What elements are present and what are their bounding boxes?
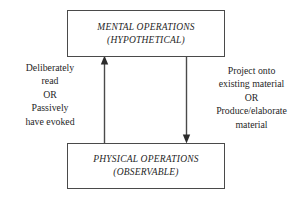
node-physical-operations-title: PHYSICAL OPERATIONS	[93, 153, 198, 166]
edge-label-upward-line-4: Passively	[0, 101, 100, 114]
edge-label-upward-line-5: have evoked	[0, 115, 100, 128]
edge-label-upward: Deliberately read OR Passively have evok…	[0, 61, 100, 128]
node-physical-operations-subtitle: (OBSERVABLE)	[113, 166, 178, 179]
edge-label-downward-line-5: material	[199, 118, 304, 131]
edge-label-upward-line-2: read	[0, 74, 100, 87]
upward-arrow	[101, 56, 108, 144]
edge-label-upward-line-1: Deliberately	[0, 61, 100, 74]
node-physical-operations: PHYSICAL OPERATIONS (OBSERVABLE)	[67, 143, 225, 189]
edge-label-upward-line-3: OR	[0, 88, 100, 101]
diagram-canvas: MENTAL OPERATIONS (HYPOTHETICAL) PHYSICA…	[0, 0, 304, 197]
edge-label-downward-line-3: OR	[199, 91, 304, 104]
edge-label-downward-line-2: existing material	[199, 77, 304, 90]
node-mental-operations-title: MENTAL OPERATIONS	[97, 21, 194, 34]
node-mental-operations-subtitle: (HYPOTHETICAL)	[107, 34, 185, 47]
node-mental-operations: MENTAL OPERATIONS (HYPOTHETICAL)	[67, 10, 225, 57]
downward-arrow	[183, 57, 190, 144]
edge-label-downward-line-1: Project onto	[199, 64, 304, 77]
edge-label-downward-line-4: Produce/elaborate	[199, 104, 304, 117]
edge-label-downward: Project onto existing material OR Produc…	[199, 64, 304, 131]
